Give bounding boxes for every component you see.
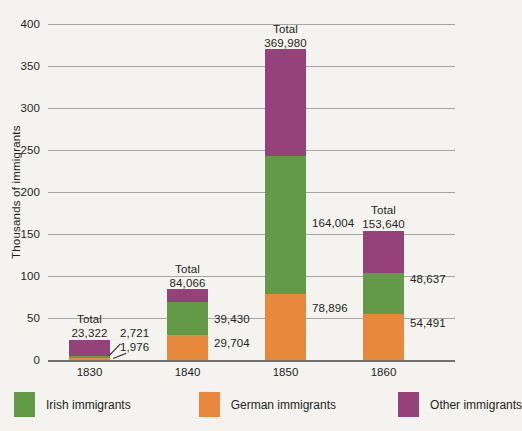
- x-tick-1830: 1830: [77, 366, 103, 378]
- y-tick-100: 100: [21, 270, 41, 282]
- y-tick-50: 50: [27, 312, 40, 324]
- axis-baseline: [48, 360, 455, 362]
- legend-swatch-irish-icon: [14, 392, 35, 417]
- label-1830-irish: 2,721: [120, 327, 149, 341]
- bar-1840-other[interactable]: [167, 289, 208, 302]
- gridline-350: [48, 66, 455, 67]
- y-tick-350: 350: [21, 60, 41, 72]
- label-1830-total: Total 23,322: [72, 313, 108, 340]
- y-tick-150: 150: [21, 228, 41, 240]
- legend-label-german: German immigrants: [231, 398, 336, 412]
- label-1860-irish: 48,637: [410, 273, 446, 287]
- bar-1850-german[interactable]: [265, 294, 306, 360]
- y-tick-300: 300: [21, 102, 41, 114]
- gridline-200: [48, 192, 455, 193]
- legend-item-other[interactable]: Other immigrants: [398, 392, 522, 417]
- plot-area: 400 350 300 250 200 150 100 50 0 1830 To…: [48, 24, 455, 360]
- legend-swatch-other-icon: [398, 392, 419, 417]
- label-1850-irish: 164,004: [312, 217, 354, 231]
- bar-1840-irish[interactable]: [167, 302, 208, 335]
- y-tick-0: 0: [34, 354, 41, 366]
- x-tick-1840: 1840: [175, 366, 201, 378]
- x-tick-1850: 1850: [273, 366, 299, 378]
- bar-1860-german[interactable]: [363, 314, 404, 360]
- chart-legend: Irish immigrants German immigrants Other…: [14, 392, 453, 417]
- gridline-250: [48, 150, 455, 151]
- bar-1840[interactable]: 1840: [167, 289, 208, 360]
- bar-1850-irish[interactable]: [265, 156, 306, 294]
- label-1840-irish: 39,430: [214, 313, 250, 327]
- bar-1840-german[interactable]: [167, 335, 208, 360]
- label-1840-german: 29,704: [214, 337, 250, 351]
- gridline-400: [48, 24, 455, 25]
- gridline-300: [48, 108, 455, 109]
- label-1860-german: 54,491: [410, 317, 446, 331]
- bar-1830-other[interactable]: [69, 340, 110, 356]
- legend-item-irish[interactable]: Irish immigrants: [14, 392, 131, 417]
- bar-1830-german[interactable]: [69, 358, 110, 360]
- label-1840-total: Total 84,066: [170, 263, 206, 290]
- y-tick-400: 400: [21, 18, 41, 30]
- bar-1860[interactable]: 1860: [363, 231, 404, 360]
- legend-label-irish: Irish immigrants: [46, 398, 131, 412]
- legend-label-other: Other immigrants: [430, 398, 522, 412]
- label-1850-total: Total 369,980: [264, 23, 306, 50]
- bar-1850-other[interactable]: [265, 49, 306, 156]
- bar-1830[interactable]: 1830: [69, 340, 110, 360]
- y-tick-200: 200: [21, 186, 41, 198]
- x-tick-1860: 1860: [371, 366, 397, 378]
- legend-swatch-german-icon: [199, 392, 220, 417]
- y-tick-250: 250: [21, 144, 41, 156]
- bar-1860-irish[interactable]: [363, 273, 404, 314]
- label-1860-total: Total 153,640: [362, 204, 404, 231]
- label-1850-german: 78,896: [312, 302, 348, 316]
- bar-1850[interactable]: 1850: [265, 49, 306, 360]
- legend-item-german[interactable]: German immigrants: [199, 392, 336, 417]
- bar-1860-other[interactable]: [363, 231, 404, 273]
